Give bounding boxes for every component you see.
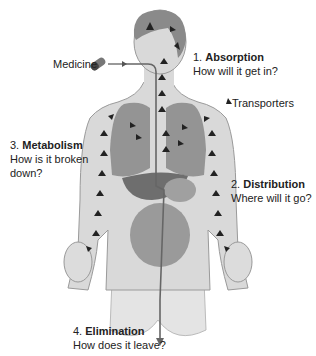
medicine-arrowhead <box>122 61 127 67</box>
step-question: down? <box>10 166 88 180</box>
transporters-label: Transporters <box>232 96 294 110</box>
step-question: Where will it go? <box>231 191 312 205</box>
step-question: How is it broken <box>10 152 88 166</box>
step-number: 2. <box>231 178 243 190</box>
absorption-label: 1. Absorption How will it get in? <box>193 50 278 78</box>
elimination-label: 4. Elimination How does it leave? <box>73 324 166 352</box>
step-number: 3. <box>10 139 22 151</box>
intestines <box>130 203 190 267</box>
stomach <box>164 178 196 202</box>
step-number: 4. <box>73 325 85 337</box>
metabolism-label: 3. Metabolism How is it broken down? <box>10 138 88 180</box>
medicine-label: Medicine <box>53 57 97 71</box>
step-title: Distribution <box>243 178 305 190</box>
distribution-label: 2. Distribution Where will it go? <box>231 177 312 205</box>
step-title: Elimination <box>85 325 144 337</box>
step-title: Metabolism <box>22 139 83 151</box>
step-question: How does it leave? <box>73 338 166 352</box>
step-number: 1. <box>193 51 205 63</box>
step-title: Absorption <box>205 51 264 63</box>
step-question: How will it get in? <box>193 64 278 78</box>
